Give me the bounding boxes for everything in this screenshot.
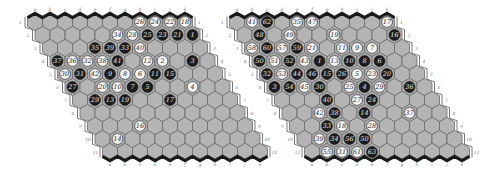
black-stone[interactable]: 26	[336, 68, 349, 81]
black-stone[interactable]: 50	[358, 133, 371, 146]
white-stone[interactable]: 41	[246, 16, 259, 29]
black-stone[interactable]: 14	[358, 107, 371, 120]
black-stone[interactable]: 25	[141, 29, 154, 42]
black-stone[interactable]: 30	[313, 81, 326, 94]
white-stone[interactable]: 13	[328, 55, 341, 68]
white-stone[interactable]: 18	[179, 16, 192, 29]
black-stone[interactable]: 54	[283, 81, 296, 94]
black-stone[interactable]: 44	[291, 68, 304, 81]
white-stone[interactable]: 7	[366, 42, 379, 55]
white-stone[interactable]: 12	[141, 55, 154, 68]
white-stone[interactable]: 23	[366, 68, 379, 81]
black-stone[interactable]: 5	[141, 81, 154, 94]
black-stone[interactable]: 7	[126, 81, 139, 94]
black-stone[interactable]: 27	[66, 81, 79, 94]
white-stone[interactable]: 61	[351, 146, 364, 159]
white-stone[interactable]: 24	[149, 16, 162, 29]
white-stone[interactable]: 45	[298, 81, 311, 94]
white-stone[interactable]: 22	[164, 16, 177, 29]
black-stone[interactable]: 56	[343, 133, 356, 146]
white-stone[interactable]: 58	[246, 42, 259, 55]
white-stone[interactable]: 25	[343, 81, 356, 94]
white-stone[interactable]: 20	[96, 81, 109, 94]
black-stone[interactable]: 33	[321, 120, 334, 133]
black-stone[interactable]: 15	[321, 68, 334, 81]
white-stone[interactable]: 38	[96, 55, 109, 68]
white-stone[interactable]: 47	[306, 16, 319, 29]
black-stone[interactable]: 11	[149, 68, 162, 81]
black-stone[interactable]: 15	[164, 68, 177, 81]
black-stone[interactable]: 34	[328, 133, 341, 146]
black-stone[interactable]: 9	[104, 68, 117, 81]
black-stone[interactable]: 60	[261, 42, 274, 55]
white-stone[interactable]: 28	[126, 29, 139, 42]
black-stone[interactable]: 59	[291, 42, 304, 55]
white-stone[interactable]: 16	[134, 120, 147, 133]
white-stone[interactable]: 32	[81, 55, 94, 68]
black-stone[interactable]: 17	[164, 94, 177, 107]
black-stone[interactable]: 8	[358, 55, 371, 68]
black-stone[interactable]: 4	[358, 81, 371, 94]
black-stone[interactable]: 1	[313, 55, 326, 68]
white-stone[interactable]: 27	[351, 94, 364, 107]
black-stone[interactable]: 63	[366, 146, 379, 159]
white-stone[interactable]: 42	[89, 68, 102, 81]
white-stone[interactable]: 28	[366, 120, 379, 133]
black-stone[interactable]: 29	[89, 94, 102, 107]
white-stone[interactable]: 57	[276, 42, 289, 55]
black-stone[interactable]: 24	[366, 94, 379, 107]
black-stone[interactable]: 62	[261, 16, 274, 29]
white-stone[interactable]: 39	[313, 133, 326, 146]
white-stone[interactable]: 29	[373, 81, 386, 94]
black-stone[interactable]: 19	[119, 94, 132, 107]
white-stone[interactable]: 40	[134, 42, 147, 55]
white-stone[interactable]: 36	[66, 55, 79, 68]
white-stone[interactable]: 10	[111, 81, 124, 94]
white-stone[interactable]: 6	[134, 68, 147, 81]
white-stone[interactable]: 11	[336, 42, 349, 55]
white-stone[interactable]: 55	[321, 146, 334, 159]
white-stone[interactable]: 34	[111, 29, 124, 42]
black-stone[interactable]: 20	[381, 68, 394, 81]
white-stone[interactable]: 17	[381, 16, 394, 29]
black-stone[interactable]: 31	[74, 68, 87, 81]
white-stone[interactable]: 49	[283, 29, 296, 42]
black-stone[interactable]: 38	[328, 107, 341, 120]
black-stone[interactable]: 40	[321, 94, 334, 107]
black-stone[interactable]: 32	[261, 68, 274, 81]
white-stone[interactable]: 19	[328, 29, 341, 42]
white-stone[interactable]: 35	[291, 16, 304, 29]
black-stone[interactable]: 39	[104, 42, 117, 55]
black-stone[interactable]: 13	[104, 94, 117, 107]
white-stone[interactable]: 43	[298, 55, 311, 68]
black-stone[interactable]: 21	[171, 29, 184, 42]
black-stone[interactable]: 37	[51, 55, 64, 68]
black-stone[interactable]: 3	[268, 81, 281, 94]
white-stone[interactable]: 51	[268, 55, 281, 68]
black-stone[interactable]: 52	[283, 55, 296, 68]
black-stone[interactable]: 46	[306, 68, 319, 81]
white-stone[interactable]: 9	[351, 42, 364, 55]
white-stone[interactable]: 5	[351, 68, 364, 81]
white-stone[interactable]: 30	[59, 68, 72, 81]
black-stone[interactable]: 50	[253, 55, 266, 68]
black-stone[interactable]: 41	[111, 55, 124, 68]
white-stone[interactable]: 2	[156, 55, 169, 68]
black-stone[interactable]: 33	[119, 42, 132, 55]
white-stone[interactable]: 8	[119, 68, 132, 81]
white-stone[interactable]: 14	[111, 133, 124, 146]
white-stone[interactable]: 26	[134, 16, 147, 29]
black-stone[interactable]: 36	[403, 81, 416, 94]
black-stone[interactable]: 3	[186, 55, 199, 68]
white-stone[interactable]: 53	[276, 68, 289, 81]
black-stone[interactable]: 35	[89, 42, 102, 55]
black-stone[interactable]: 1	[186, 29, 199, 42]
white-stone[interactable]: 37	[403, 107, 416, 120]
black-stone[interactable]: 16	[388, 29, 401, 42]
white-stone[interactable]: 4	[186, 81, 199, 94]
white-stone[interactable]: 18	[336, 120, 349, 133]
black-stone[interactable]: 6	[373, 55, 386, 68]
black-stone[interactable]: 10	[343, 55, 356, 68]
white-stone[interactable]: 42	[313, 107, 326, 120]
black-stone[interactable]: 23	[156, 29, 169, 42]
